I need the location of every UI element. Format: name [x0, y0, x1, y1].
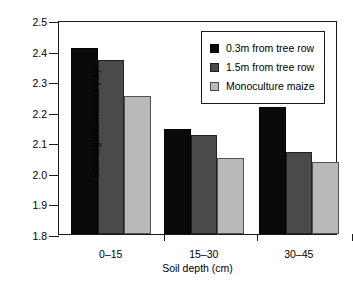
legend-label: 0.3m from tree row: [226, 43, 314, 54]
bar: [217, 158, 244, 234]
chart-legend: 0.3m from tree row1.5m from tree rowMono…: [201, 31, 325, 104]
bar: [191, 135, 218, 234]
legend-label: 1.5m from tree row: [226, 62, 314, 73]
y-axis-tick: [49, 83, 59, 84]
y-axis-tick-label: 2.0: [19, 169, 47, 181]
bar: [164, 129, 191, 234]
y-axis-tick-label: 2.1: [19, 138, 47, 150]
bar: [124, 96, 151, 234]
y-axis-tick: [49, 22, 59, 23]
bar: [312, 162, 339, 234]
y-axis-tick: [49, 144, 59, 145]
y-axis-tick: [49, 205, 59, 206]
legend-swatch-icon: [210, 63, 219, 72]
y-axis-tick-label: 2.4: [19, 47, 47, 59]
plot-area: 2.52.42.32.22.12.01.91.8 0–1515–3030–45 …: [58, 21, 337, 235]
x-axis-tick-label: 0–15: [71, 248, 151, 260]
legend-item: 1.5m from tree row: [210, 58, 315, 77]
y-axis-tick-label: 1.9: [19, 199, 47, 211]
x-axis-tick: [257, 234, 258, 241]
x-axis-tick: [164, 234, 165, 241]
x-axis-tick: [352, 234, 353, 241]
y-axis-tick-label: 2.3: [19, 77, 47, 89]
y-axis-tick: [49, 175, 59, 176]
legend-item: 0.3m from tree row: [210, 39, 315, 58]
bar: [98, 60, 125, 234]
legend-label: Monoculture maize: [226, 81, 315, 92]
legend-swatch-icon: [210, 44, 219, 53]
x-axis-label: Soil depth (cm): [58, 262, 337, 274]
y-axis-tick-label: 2.2: [19, 108, 47, 120]
y-axis-tick-label: 2.5: [19, 16, 47, 28]
y-axis-label: Soil organic matter (%): [89, 44, 101, 204]
x-axis-tick-label: 30–45: [259, 248, 339, 260]
bar: [259, 107, 286, 234]
bar: [286, 152, 313, 234]
y-axis-tick: [49, 53, 59, 54]
y-axis-tick-label: 1.8: [19, 230, 47, 242]
legend-item: Monoculture maize: [210, 77, 315, 96]
y-axis-tick: [49, 114, 59, 115]
legend-swatch-icon: [210, 82, 219, 91]
x-axis-tick-label: 15–30: [164, 248, 244, 260]
y-axis-tick: [49, 236, 59, 237]
